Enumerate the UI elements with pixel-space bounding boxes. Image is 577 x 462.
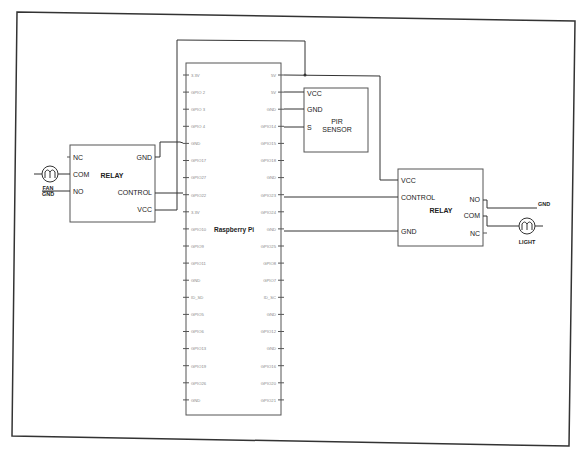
pi-right-pin-label: 5V [271, 73, 276, 78]
pi-right-pin-label: GPIO8 [263, 261, 276, 266]
pi-left-pin-label: GPIO9 [191, 244, 204, 249]
fan-gnd-label: GND [42, 191, 54, 197]
pi-right-pin-label: GPIO16 [261, 364, 277, 369]
pi-right-pin-label: GND [267, 346, 276, 351]
relay-right-pin-com: COM [464, 212, 481, 219]
relay-right-pin-gnd: GND [401, 228, 417, 235]
pi-right-pin-label: GND [267, 107, 276, 112]
pi-left-pin-label: ID_SD [191, 295, 203, 300]
raspberry-pi-label: Raspberry Pi [214, 226, 254, 234]
pi-right-pin-label: 5V [271, 90, 276, 95]
outer-frame [12, 12, 575, 446]
pir-pin-s: S [307, 124, 312, 131]
right-gnd-label: GND [538, 201, 550, 207]
raspberry-pi-board: Raspberry Pi 3.3VGPIO 2GPIO 3GPIO 4GNDGP… [183, 63, 284, 415]
pi-left-pin-label: GPIO27 [191, 175, 207, 180]
relay-left: NC COM NO RELAY GND CONTROL VCC [67, 145, 155, 222]
pir-pin-vcc: VCC [307, 90, 322, 97]
relay-left-pin-vcc: VCC [137, 206, 152, 213]
pi-right-pin-label: GPIO21 [261, 398, 277, 403]
pi-right-pin-label: GPIO14 [261, 124, 277, 129]
pi-left-pin-label: 3.3V [191, 210, 200, 215]
pi-right-pin-label: GND [267, 227, 276, 232]
pi-right-pin-label: ID_SC [264, 295, 276, 300]
pi-right-pin-label: GPIO12 [261, 329, 277, 334]
pir-pin-gnd: GND [307, 106, 323, 113]
pi-right-pin-label: GPIO18 [261, 158, 277, 163]
pi-left-pin-label: GPIO6 [191, 329, 204, 334]
relay-left-pin-nc: NC [73, 154, 83, 161]
relay-right-pin-nc: NC [470, 230, 480, 237]
relay-left-pin-com: COM [73, 171, 90, 178]
pi-right-pin-label: GND [267, 312, 276, 317]
relay-left-label: RELAY [100, 172, 123, 179]
pi-right-pin-label: GPIO23 [261, 193, 277, 198]
relay-right-pin-vcc: VCC [401, 177, 416, 184]
pi-left-pin-label: GPIO17 [191, 158, 207, 163]
pi-right-pin-label: GPIO15 [261, 141, 277, 146]
pi-right-pin-label: GPIO7 [263, 278, 276, 283]
pi-left-pin-label: GPIO 2 [191, 90, 206, 95]
pi-left-pin-label: GPIO19 [191, 364, 207, 369]
pir-label-line2: SENSOR [322, 126, 352, 133]
pi-right-pin-label: GPIO20 [261, 381, 277, 386]
relay-right-label: RELAY [429, 207, 452, 214]
pir-sensor: VCC GND S PIR SENSOR [304, 88, 368, 152]
pi-right-pin-label: GPIO24 [261, 210, 277, 215]
pi-right-pin-label: GND [267, 175, 276, 180]
pi-left-pin-label: GPIO22 [191, 193, 207, 198]
pi-left-pin-label: GPIO10 [191, 227, 207, 232]
pi-left-pin-label: GPIO26 [191, 381, 207, 386]
relay-left-pin-no: NO [73, 188, 84, 195]
pi-right-pin-label: GPIO25 [261, 244, 277, 249]
circuit-diagram: Raspberry Pi 3.3VGPIO 2GPIO 3GPIO 4GNDGP… [0, 0, 577, 462]
pi-left-pin-label: GND [191, 278, 200, 283]
relay-right-pin-no: NO [470, 196, 481, 203]
light-label: LIGHT [519, 239, 536, 245]
pi-left-pin-label: 3.3V [191, 73, 200, 78]
pi-left-pin-label: GPIO 3 [191, 107, 206, 112]
pi-left-pin-label: GPIO13 [191, 346, 207, 351]
relay-right: VCC CONTROL GND RELAY NO COM NC [398, 169, 487, 246]
pir-label-line1: PIR [331, 118, 343, 125]
pi-left-pin-label: GPIO 4 [191, 124, 206, 129]
pi-left-pin-label: GPIO11 [191, 261, 206, 266]
pi-left-pin-label: GND [191, 141, 200, 146]
pi-left-pin-label: GND [191, 398, 200, 403]
pi-left-pin-label: GPIO5 [191, 312, 204, 317]
relay-right-pin-control: CONTROL [401, 194, 435, 201]
relay-left-pin-control: CONTROL [118, 189, 152, 196]
relay-left-pin-gnd: GND [136, 154, 152, 161]
